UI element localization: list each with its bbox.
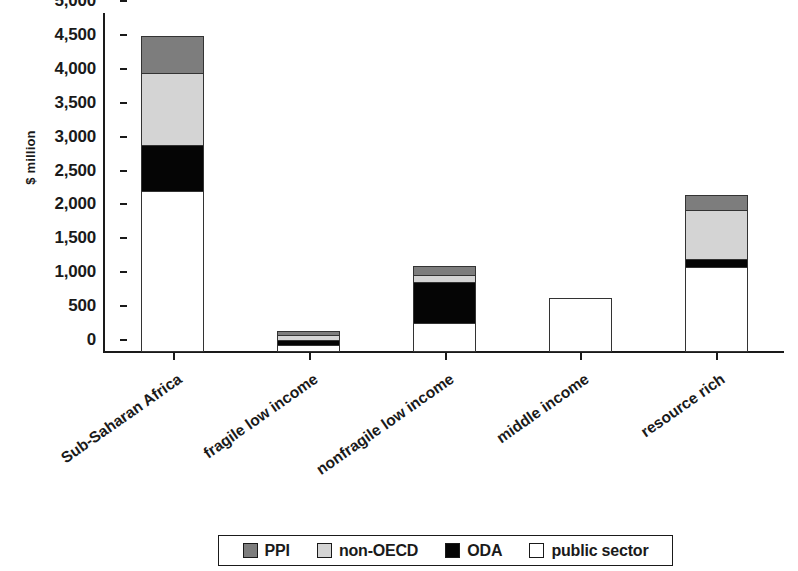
legend-item[interactable]: PPI (243, 542, 290, 560)
legend-label: ODA (467, 542, 502, 560)
legend-item[interactable]: ODA (445, 542, 502, 560)
y-tick-label: 5,000 (30, 0, 96, 9)
bar-slot (685, 13, 748, 352)
stacked-bar[interactable] (413, 266, 476, 352)
bar-segment-non-oecd[interactable] (686, 210, 747, 259)
stacked-bar[interactable] (277, 331, 340, 352)
bar-segment-ppi[interactable] (414, 267, 475, 275)
y-tick-label: 2,500 (30, 162, 96, 179)
x-tick-mark (445, 353, 447, 360)
stacked-bar-chart-figure: $ million 05001,0001,5002,0002,5003,0003… (0, 0, 798, 571)
x-axis-label: middle income (435, 370, 593, 488)
x-axis-label: nonfragile low income (299, 370, 457, 488)
bar-segment-public-sector[interactable] (686, 267, 747, 351)
x-tick-mark (173, 353, 175, 360)
y-tick-label: 1,000 (30, 263, 96, 280)
bar-segment-oda[interactable] (686, 259, 747, 267)
legend-swatch-ppi-icon (243, 543, 258, 558)
chart-legend: PPInon-OECDODApublic sector (218, 535, 673, 566)
bar-slot (277, 13, 340, 352)
legend-label: PPI (265, 542, 290, 560)
y-tick-label: 500 (30, 297, 96, 314)
bar-segment-oda[interactable] (142, 145, 203, 191)
bar-segment-non-oecd[interactable] (142, 73, 203, 145)
y-tick-label: 2,000 (30, 195, 96, 212)
x-axis-label: resource rich (571, 370, 729, 488)
y-tick-label: 4,500 (30, 26, 96, 43)
legend-label: public sector (551, 542, 648, 560)
bar-segment-ppi[interactable] (142, 37, 203, 73)
bar-segment-public-sector[interactable] (414, 323, 475, 351)
bar-segment-public-sector[interactable] (278, 345, 339, 351)
y-tick-mark (120, 0, 127, 2)
legend-swatch-oda-icon (445, 543, 460, 558)
y-tick-label: 0 (30, 331, 96, 348)
bar-slot (549, 13, 612, 352)
bar-segment-ppi[interactable] (686, 196, 747, 210)
plot-area (105, 13, 784, 352)
bar-segment-public-sector[interactable] (142, 191, 203, 351)
y-tick-label: 3,000 (30, 128, 96, 145)
stacked-bar[interactable] (549, 298, 612, 352)
y-axis-ticks: 05001,0001,5002,0002,5003,0003,5004,0004… (24, 0, 96, 360)
legend-item[interactable]: public sector (529, 542, 648, 560)
stacked-bar[interactable] (141, 36, 204, 352)
bar-segment-oda[interactable] (414, 282, 475, 323)
x-tick-mark (716, 353, 718, 360)
y-tick-label: 3,500 (30, 94, 96, 111)
x-axis-label: Sub-Saharan Africa (27, 370, 185, 488)
bar-segment-public-sector[interactable] (550, 299, 611, 351)
bar-slot (413, 13, 476, 352)
legend-label: non-OECD (339, 542, 418, 560)
stacked-bar[interactable] (685, 195, 748, 352)
legend-swatch-public-icon (529, 543, 544, 558)
x-tick-mark (309, 353, 311, 360)
y-tick-label: 1,500 (30, 229, 96, 246)
y-tick-label: 4,000 (30, 60, 96, 77)
legend-swatch-nonoecd-icon (317, 543, 332, 558)
x-axis-label: fragile low income (163, 370, 321, 488)
bar-segment-non-oecd[interactable] (414, 275, 475, 282)
legend-item[interactable]: non-OECD (317, 542, 418, 560)
bar-slot (141, 13, 204, 352)
x-tick-mark (580, 353, 582, 360)
